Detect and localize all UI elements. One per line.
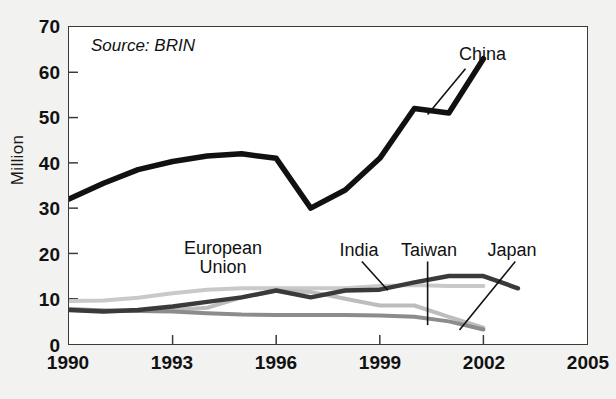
- x-axis-ticks: 199019931996199920022005: [0, 352, 616, 382]
- y-tick-40: 40: [16, 154, 60, 173]
- x-tick-1996: 1996: [255, 352, 297, 374]
- annotation-european-union: European Union: [184, 239, 262, 277]
- source-note: Source: BRIN: [91, 37, 195, 55]
- chart-svg: [69, 27, 587, 344]
- y-tick-60: 60: [16, 63, 60, 82]
- annotation-taiwan: Taiwan: [401, 241, 457, 260]
- y-tick-30: 30: [16, 199, 60, 218]
- annotation-china: China: [459, 45, 506, 64]
- x-tick-1990: 1990: [47, 352, 89, 374]
- x-tick-1999: 1999: [359, 352, 401, 374]
- y-tick-10: 10: [16, 290, 60, 309]
- y-tick-50: 50: [16, 108, 60, 127]
- data-series-group: [69, 59, 518, 330]
- y-axis-ticks: 706050403020100: [0, 0, 60, 399]
- annotation-eu-line1: European: [184, 238, 262, 258]
- x-tick-2002: 2002: [463, 352, 505, 374]
- annotation-japan: Japan: [487, 241, 536, 260]
- axis-tick-marks: [69, 72, 483, 344]
- plot-area: Source: BRIN China European Union India …: [68, 26, 588, 345]
- annotation-eu-line2: Union: [199, 257, 246, 277]
- x-tick-1993: 1993: [151, 352, 193, 374]
- y-tick-20: 20: [16, 245, 60, 264]
- annotation-leader-lines: [362, 69, 515, 330]
- x-tick-2005: 2005: [567, 352, 609, 374]
- annotation-india: India: [339, 241, 378, 260]
- y-tick-70: 70: [16, 17, 60, 36]
